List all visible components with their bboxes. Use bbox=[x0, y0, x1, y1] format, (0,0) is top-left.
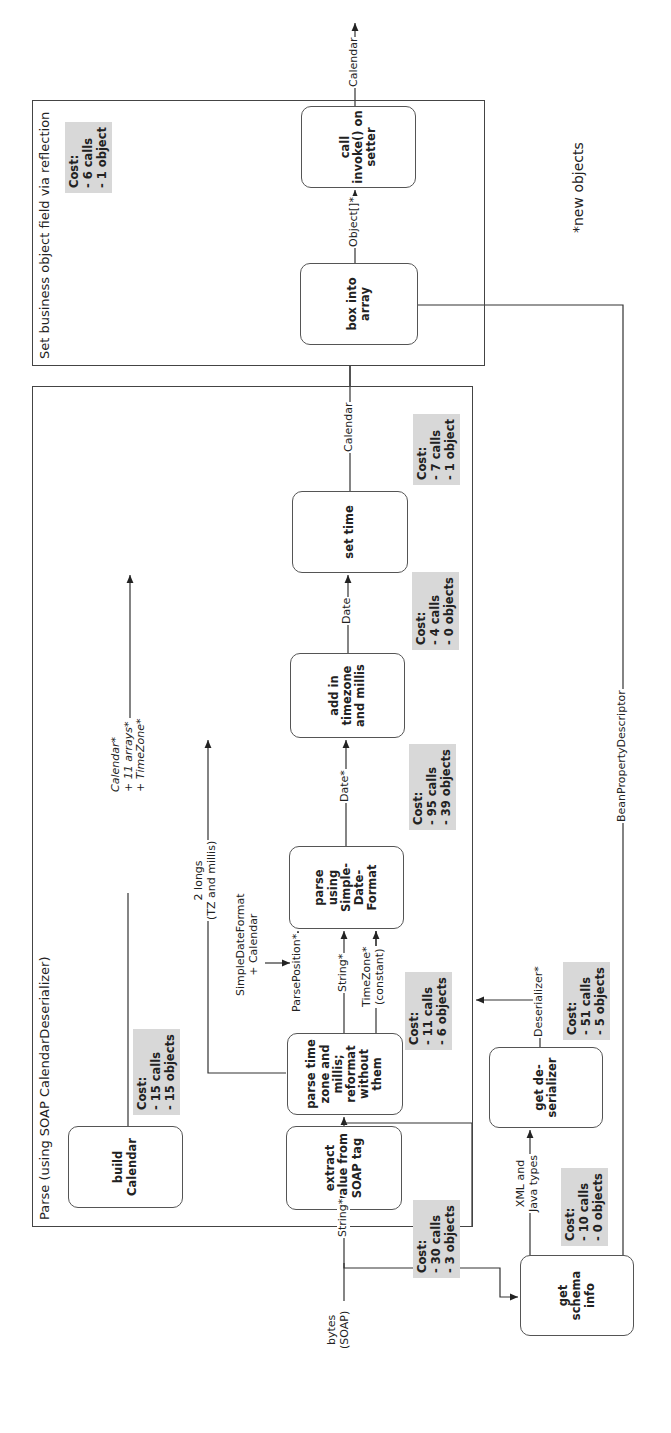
set-field-frame-title: Set business object field via reflection bbox=[37, 112, 52, 359]
edge-deserializer: Deserializer* bbox=[533, 965, 546, 1038]
add-timezone-box: add in timezone and millis bbox=[290, 653, 405, 738]
cost-set-time: Cost: - 7 calls - 1 object bbox=[413, 414, 460, 485]
edge-bytes-soap: bytes (SOAP) bbox=[326, 1310, 351, 1350]
parse-timezone-label: parse time zone and millis; reformat wit… bbox=[305, 1037, 384, 1111]
cost-get-schema: Cost: - 10 calls - 0 objects bbox=[561, 1168, 608, 1246]
edge-two-longs: 2 longs (TZ and millis) bbox=[193, 840, 218, 921]
get-schema-label: get schema info bbox=[557, 1259, 597, 1332]
edge-object-array: Object[]* bbox=[348, 196, 361, 248]
cost-extract: Cost: - 30 calls - 3 objects bbox=[413, 1200, 460, 1278]
legend-new-objects: *new objects bbox=[570, 142, 586, 233]
cost-parse-sdf: Cost: - 95 calls - 39 objects bbox=[409, 744, 456, 830]
cost-get-deserializer: Cost: - 51 calls - 5 objects bbox=[563, 962, 610, 1040]
add-timezone-label: add in timezone and millis bbox=[328, 657, 368, 734]
edge-string-1: String* bbox=[337, 1198, 350, 1238]
extract-value-label: extract value from SOAP tag bbox=[324, 1130, 364, 1206]
set-time-label: set time bbox=[343, 505, 356, 558]
parse-frame-title: Parse (using SOAP CalendarDeserializer) bbox=[37, 956, 52, 1220]
call-invoke-label: call invoke() on setter bbox=[339, 110, 379, 184]
edge-date-star: Date* bbox=[339, 769, 352, 803]
build-calendar-box: build Calendar bbox=[68, 1126, 183, 1208]
parse-sdf-box: parse using Simple-Date-Format bbox=[289, 846, 404, 929]
cost-set-field: Cost: - 6 calls - 1 object bbox=[65, 122, 112, 193]
parse-timezone-box: parse time zone and millis; reformat wit… bbox=[287, 1033, 403, 1115]
edge-calendar-final: Calendar bbox=[348, 37, 361, 88]
set-time-box: set time bbox=[292, 491, 408, 573]
edge-calendar-bundle: Calendar* + 11 arrays* + TimeZone* bbox=[110, 718, 148, 793]
get-deserializer-label: get de-serializer bbox=[533, 1051, 559, 1124]
call-invoke-box: call invoke() on setter bbox=[301, 106, 416, 188]
parse-sdf-label: parse using Simple-Date-Format bbox=[313, 850, 379, 925]
get-deserializer-box: get de-serializer bbox=[489, 1047, 603, 1128]
edge-sdf-calendar: SimpleDateFormat + Calendar bbox=[235, 892, 260, 997]
cost-add-timezone: Cost: - 4 calls - 0 objects bbox=[412, 572, 459, 650]
edge-date: Date bbox=[341, 597, 354, 625]
get-schema-box: get schema info bbox=[520, 1255, 634, 1336]
edge-string-2: String* bbox=[337, 953, 350, 993]
edge-calendar-out: Calendar bbox=[343, 402, 356, 453]
edge-xml-java-types: XML and Java types bbox=[515, 1154, 540, 1213]
edge-timezone-constant: TimeZone* (constant) bbox=[361, 946, 386, 1008]
edge-parse-position: ParsePosition* bbox=[291, 933, 304, 1013]
box-into-array-box: box into array bbox=[300, 263, 418, 345]
diagram-canvas: Parse (using SOAP CalendarDeserializer) … bbox=[0, 0, 671, 1433]
cost-parse-timezone: Cost: - 11 calls - 6 objects bbox=[405, 972, 452, 1050]
box-into-array-label: box into array bbox=[346, 267, 372, 341]
cost-build-calendar: Cost: - 15 calls - 15 objects bbox=[133, 1029, 180, 1115]
build-calendar-label: build Calendar bbox=[112, 1130, 138, 1204]
edge-bean-property-descriptor: BeanPropertyDescriptor bbox=[616, 689, 629, 823]
